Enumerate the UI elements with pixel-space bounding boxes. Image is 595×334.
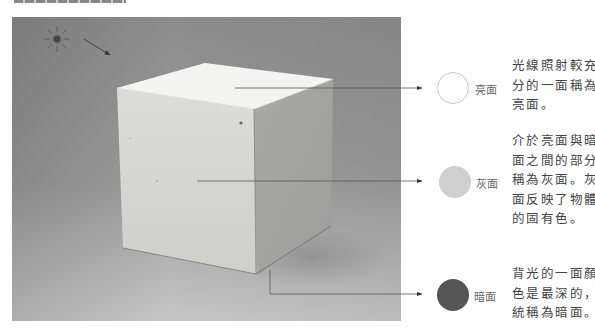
description-line: 光線照射較充 bbox=[512, 56, 592, 76]
light-face-description: 光線照射較充 分的一面稱為 亮面。 bbox=[512, 56, 592, 115]
gray-face-swatch bbox=[439, 166, 471, 198]
pointer-arrows bbox=[0, 0, 595, 334]
dark-face-pointer bbox=[270, 270, 422, 294]
description-line: 的固有色。 bbox=[512, 209, 592, 229]
description-line: 背光的一面顏 bbox=[512, 264, 592, 284]
gray-face-label: 灰面 bbox=[476, 175, 498, 191]
description-line: 介於亮面與暗 bbox=[512, 131, 592, 151]
description-line: 稱為灰面。灰 bbox=[512, 170, 592, 190]
description-line: 統稱為暗面。 bbox=[512, 303, 592, 323]
description-line: 色是最深的， bbox=[512, 284, 592, 304]
dark-face-description: 背光的一面顏 色是最深的， 統稱為暗面。 bbox=[512, 264, 592, 323]
gray-face-description: 介於亮面與暗 面之間的部分 稱為灰面。灰 面反映了物體 的固有色。 bbox=[512, 131, 592, 229]
dark-face-swatch bbox=[437, 279, 469, 311]
description-line: 面之間的部分 bbox=[512, 151, 592, 171]
light-face-label: 亮面 bbox=[475, 81, 497, 97]
light-face-swatch bbox=[437, 72, 469, 104]
description-line: 亮面。 bbox=[512, 95, 592, 115]
description-line: 面反映了物體 bbox=[512, 190, 592, 210]
dark-face-label: 暗面 bbox=[474, 288, 496, 304]
description-line: 分的一面稱為 bbox=[512, 76, 592, 96]
